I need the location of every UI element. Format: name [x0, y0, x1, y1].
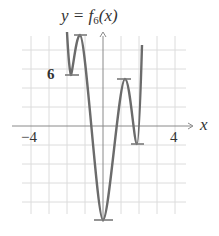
extrema-markers [65, 35, 144, 220]
x-axis-label: x [200, 115, 208, 135]
grid [22, 36, 186, 214]
y-tick-label-6: 6 [47, 66, 55, 83]
x-tick-label-neg4: −4 [21, 129, 37, 146]
function-graph [0, 0, 219, 236]
axes [12, 32, 193, 222]
chart-title: y = f6(x) [61, 6, 118, 26]
x-tick-label-4: 4 [170, 129, 178, 146]
